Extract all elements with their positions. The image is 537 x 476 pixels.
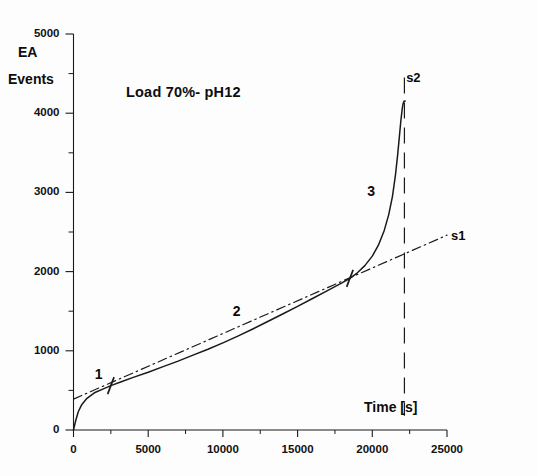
x-tick-label: 25000 bbox=[417, 444, 477, 456]
y-tick-label: 4000 bbox=[0, 107, 60, 119]
annotation-stage-3: 3 bbox=[367, 184, 375, 198]
annotation-stage-1: 1 bbox=[95, 367, 103, 381]
x-tick-label: 5000 bbox=[118, 444, 178, 456]
y-tick-label: 5000 bbox=[0, 28, 60, 40]
x-tick-label: 15000 bbox=[268, 444, 328, 456]
x-axis-title: Time [s] bbox=[364, 400, 417, 414]
series-s1-linear-fit bbox=[74, 235, 448, 399]
data-series-group bbox=[74, 78, 448, 430]
chart-title: Load 70%- pH12 bbox=[126, 85, 241, 100]
series-acoustic-emission-cumulative-events bbox=[74, 101, 406, 430]
annotation-slope-s2: s2 bbox=[406, 71, 420, 84]
transition-markers-group bbox=[108, 270, 353, 394]
y-tick-label: 3000 bbox=[0, 186, 60, 198]
y-tick-label: 2000 bbox=[0, 266, 60, 278]
y-tick-label: 0 bbox=[0, 424, 60, 436]
chart-figure: EA Events Time [s] Load 70%- pH12 050001… bbox=[0, 0, 537, 476]
x-tick-label: 20000 bbox=[342, 444, 402, 456]
axes-group bbox=[66, 34, 448, 437]
annotation-slope-s1: s1 bbox=[451, 229, 465, 242]
y-axis-title-line2: Events bbox=[8, 72, 54, 86]
y-tick-label: 1000 bbox=[0, 345, 60, 357]
y-axis-title-line1: EA bbox=[18, 45, 37, 59]
marker-transition-1-2 bbox=[108, 377, 114, 394]
x-tick-label: 0 bbox=[44, 444, 104, 456]
annotation-stage-2: 2 bbox=[233, 304, 241, 318]
x-tick-label: 10000 bbox=[193, 444, 253, 456]
